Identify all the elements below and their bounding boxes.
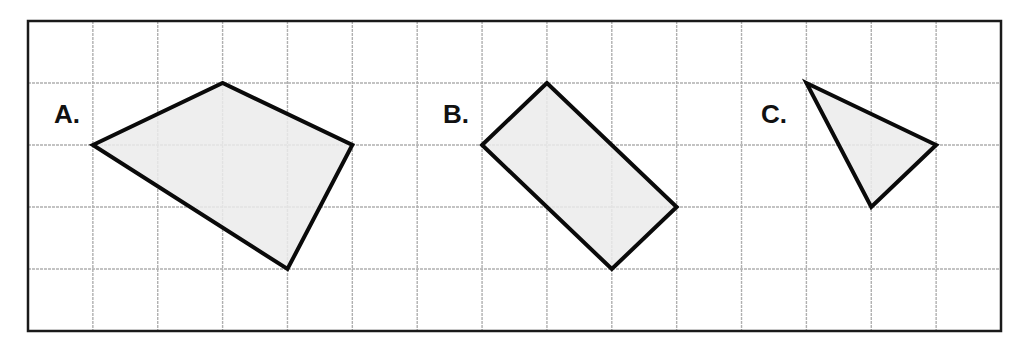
grid-figure [0, 0, 1024, 342]
shape-c-label: C. [761, 101, 787, 127]
shape-b-label: B. [443, 101, 469, 127]
shape-a-label: A. [54, 101, 80, 127]
shape-b-rectangle [482, 83, 677, 269]
shapes-group [93, 83, 936, 269]
